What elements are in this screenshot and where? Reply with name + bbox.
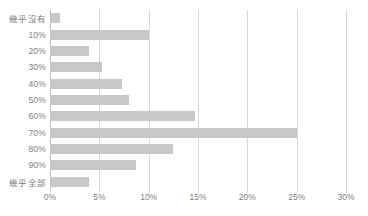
x-axis-tick-label: 15% xyxy=(189,192,206,202)
gridline xyxy=(346,10,347,190)
bar-row xyxy=(50,108,346,124)
bar-row xyxy=(50,26,346,42)
y-axis-label-slot: 幾乎沒有 xyxy=(0,10,46,26)
bar xyxy=(50,13,60,23)
bar-row xyxy=(50,141,346,157)
bar xyxy=(50,46,89,56)
y-axis-label: 30% xyxy=(28,62,46,72)
x-axis-tick-label: 30% xyxy=(337,192,354,202)
bar-row xyxy=(50,157,346,173)
bar-row xyxy=(50,92,346,108)
bar-row xyxy=(50,10,346,26)
bar xyxy=(50,160,136,170)
y-axis-category-labels: 幾乎沒有10%20%30%40%50%60%70%80%90%幾乎全部 xyxy=(0,10,46,190)
y-axis-label: 10% xyxy=(28,30,46,40)
bar-row xyxy=(50,59,346,75)
y-axis-label: 80% xyxy=(28,144,46,154)
bar xyxy=(50,62,102,72)
bar-row xyxy=(50,125,346,141)
bar xyxy=(50,111,195,121)
bar-row xyxy=(50,174,346,190)
y-axis-label-slot: 50% xyxy=(0,92,46,108)
y-axis-label-slot: 幾乎全部 xyxy=(0,174,46,190)
x-axis-tick-label: 5% xyxy=(93,192,105,202)
horizontal-bar-chart: 幾乎沒有10%20%30%40%50%60%70%80%90%幾乎全部 0%5%… xyxy=(0,0,368,216)
y-axis-label: 60% xyxy=(28,111,46,121)
bar xyxy=(50,177,89,187)
y-axis-label-slot: 90% xyxy=(0,157,46,173)
y-axis-label-slot: 70% xyxy=(0,125,46,141)
bar xyxy=(50,95,129,105)
bar-row xyxy=(50,43,346,59)
y-axis-label: 幾乎沒有 xyxy=(9,12,46,24)
x-axis-tick-label: 10% xyxy=(140,192,157,202)
x-axis-tick-label: 0% xyxy=(44,192,56,202)
bars-layer xyxy=(50,10,346,190)
y-axis-label: 20% xyxy=(28,46,46,56)
bar xyxy=(50,144,173,154)
plot-area xyxy=(50,10,346,190)
bar xyxy=(50,30,149,40)
y-axis-label: 幾乎全部 xyxy=(9,176,46,188)
x-axis-tick-label: 20% xyxy=(239,192,256,202)
bar xyxy=(50,128,297,138)
x-axis-tick-labels: 0%5%10%15%20%25%30% xyxy=(50,192,346,212)
y-axis-label-slot: 80% xyxy=(0,141,46,157)
y-axis-label-slot: 40% xyxy=(0,75,46,91)
y-axis-label: 70% xyxy=(28,128,46,138)
x-axis-tick-label: 25% xyxy=(288,192,305,202)
y-axis-label: 50% xyxy=(28,95,46,105)
y-axis-label-slot: 30% xyxy=(0,59,46,75)
y-axis-label-slot: 10% xyxy=(0,26,46,42)
y-axis-label: 90% xyxy=(28,160,46,170)
bar xyxy=(50,79,122,89)
y-axis-label-slot: 60% xyxy=(0,108,46,124)
y-axis-label: 40% xyxy=(28,79,46,89)
bar-row xyxy=(50,75,346,91)
y-axis-label-slot: 20% xyxy=(0,43,46,59)
